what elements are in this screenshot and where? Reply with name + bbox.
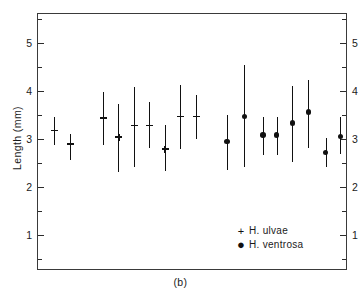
legend-entry: ●H. ventrosa xyxy=(233,238,303,252)
axis-tick-right-5 xyxy=(340,43,346,44)
filled-circle-marker xyxy=(224,139,229,144)
filled-circle-marker xyxy=(242,114,247,119)
legend-label: H. ulvae xyxy=(249,226,288,236)
axis-tick-left-3-5 xyxy=(38,115,42,116)
legend-label: H. ventrosa xyxy=(249,240,303,250)
axis-tick-right-2 xyxy=(340,187,346,188)
axis-tick-left-4 xyxy=(38,91,44,92)
axis-tick-right-4-5 xyxy=(342,67,346,68)
filled-circle-marker xyxy=(260,132,265,137)
plus-marker xyxy=(177,116,184,118)
y-tick-label-left-1: 1 xyxy=(14,230,32,241)
filled-circle-marker-icon: ● xyxy=(233,245,249,246)
axis-tick-left-3 xyxy=(38,139,44,140)
y-tick-label-right-1: 1 xyxy=(352,230,361,241)
axis-tick-left-5 xyxy=(38,43,44,44)
axis-tick-right-4 xyxy=(340,91,346,92)
plus-marker xyxy=(67,143,74,145)
filled-circle-marker xyxy=(274,132,279,137)
axis-tick-left-0-5 xyxy=(38,259,42,260)
axis-tick-left-5-5 xyxy=(38,19,42,20)
axis-tick-left-4-5 xyxy=(38,67,42,68)
plot-frame: 1122334455 +H. ulvae●H. ventrosa xyxy=(37,13,347,270)
y-tick-label-right-5: 5 xyxy=(352,38,361,49)
filled-circle-marker xyxy=(290,120,295,125)
plus-marker xyxy=(146,125,153,127)
y-tick-label-left-5: 5 xyxy=(14,38,32,49)
plus-marker xyxy=(131,125,138,127)
legend: +H. ulvae●H. ventrosa xyxy=(233,224,303,252)
plus-marker xyxy=(115,136,122,138)
axis-tick-right-1 xyxy=(340,235,346,236)
y-tick-label-left-3: 3 xyxy=(14,134,32,145)
axis-tick-right-3-5 xyxy=(342,115,346,116)
axis-tick-right-0-5 xyxy=(342,259,346,260)
axis-tick-right-2-5 xyxy=(342,163,346,164)
plus-marker-icon: + xyxy=(233,226,249,237)
plus-marker xyxy=(193,116,200,118)
axis-tick-left-1-5 xyxy=(38,211,42,212)
filled-circle-marker xyxy=(306,109,311,114)
axis-tick-left-1 xyxy=(38,235,44,236)
plus-marker xyxy=(162,148,169,150)
axis-tick-right-1-5 xyxy=(342,211,346,212)
y-tick-label-right-4: 4 xyxy=(352,86,361,97)
y-tick-label-left-2: 2 xyxy=(14,182,32,193)
figure-caption: (b) xyxy=(0,276,361,288)
y-tick-label-right-2: 2 xyxy=(352,182,361,193)
legend-entry: +H. ulvae xyxy=(233,224,303,238)
y-tick-label-left-4: 4 xyxy=(14,86,32,97)
filled-circle-marker xyxy=(323,150,328,155)
axis-tick-right-5-5 xyxy=(342,19,346,20)
axis-tick-left-2-5 xyxy=(38,163,42,164)
y-tick-label-right-3: 3 xyxy=(352,134,361,145)
plus-marker xyxy=(51,130,58,132)
plus-marker xyxy=(100,117,107,119)
axis-tick-left-2 xyxy=(38,187,44,188)
figure-panel: Length (mm) 1122334455 +H. ulvae●H. vent… xyxy=(0,0,361,295)
